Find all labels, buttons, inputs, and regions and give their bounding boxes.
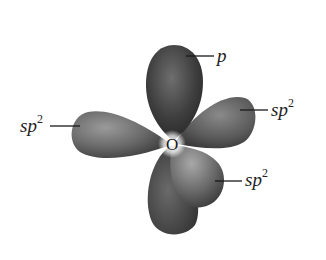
label-p: p [217, 46, 227, 65]
orbital-diagram: O p sp2 sp2 sp2 [0, 0, 326, 260]
label-sp2-left: sp2 [20, 116, 43, 135]
label-sp2-lower: sp2 [245, 170, 268, 189]
label-sp2-right-sup: 2 [288, 96, 294, 110]
label-sp2-right-base: sp [271, 99, 288, 120]
label-sp2-right: sp2 [271, 100, 294, 119]
orbital-lobes [0, 0, 326, 260]
oxygen-atom-symbol: O [166, 136, 178, 153]
sp2-left-lobe [72, 111, 168, 158]
label-sp2-lower-sup: 2 [262, 166, 268, 180]
label-sp2-lower-base: sp [245, 169, 262, 190]
label-sp2-left-base: sp [20, 115, 37, 136]
label-p-base: p [217, 45, 227, 66]
label-sp2-left-sup: 2 [37, 112, 43, 126]
